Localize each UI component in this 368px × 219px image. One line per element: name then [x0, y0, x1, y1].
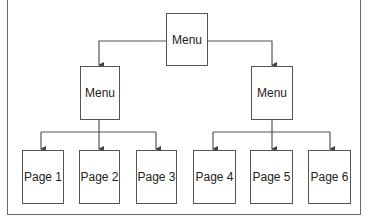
page-1-box: Page 1 [22, 150, 64, 204]
page-2-box: Page 2 [79, 150, 120, 204]
page-label: Page 5 [252, 170, 290, 184]
page-label: Page 6 [310, 170, 348, 184]
page-label: Page 1 [24, 170, 62, 184]
page-5-box: Page 5 [250, 150, 293, 204]
root-to-left-menu-arrow [99, 41, 166, 65]
right-submenu-box: Menu [251, 66, 293, 120]
root-to-right-menu-arrow [208, 41, 272, 65]
right-submenu-label: Menu [257, 86, 287, 100]
page-4-box: Page 4 [193, 150, 236, 204]
page-3-box: Page 3 [136, 150, 177, 204]
left-submenu-label: Menu [85, 86, 115, 100]
page-6-box: Page 6 [308, 150, 351, 204]
page-label: Page 3 [137, 170, 175, 184]
root-menu-label: Menu [172, 33, 202, 47]
root-menu-box: Menu [166, 13, 208, 66]
page-label: Page 2 [80, 170, 118, 184]
left-submenu-box: Menu [80, 66, 120, 120]
page-label: Page 4 [195, 170, 233, 184]
